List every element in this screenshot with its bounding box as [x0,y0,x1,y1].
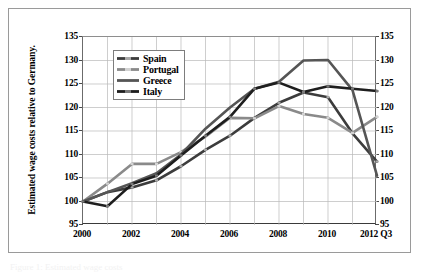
y-axis-title-container: Estimated wage costs relative to Germany… [23,36,39,224]
data-point-spain [327,96,330,98]
data-point-spain [376,160,379,162]
figure-container: Estimated wage costs relative to Germany… [0,0,421,277]
legend-item-italy[interactable]: Italy [117,86,179,97]
y-axis-tick-label: 130 [380,55,406,64]
y-axis-title: Estimated wage costs relative to Germany… [26,45,37,214]
legend-item-portugal[interactable]: Portugal [117,64,179,75]
legend-swatch-icon [117,53,139,64]
x-axis-tick-label: 2002 [122,229,140,239]
data-point-portugal [253,117,256,119]
y-axis-tick-label: 95 [52,220,78,229]
y-axis-tick-label: 120 [380,102,406,111]
data-point-spain [229,135,232,137]
y-axis-tick-label: 100 [52,196,78,205]
data-point-spain [155,179,158,181]
chart-frame: Estimated wage costs relative to Germany… [8,8,411,253]
y-axis-labels-left: 13513012512011511010510095 [52,36,78,224]
data-point-italy [302,91,305,93]
data-point-italy [253,88,256,90]
legend-item-spain[interactable]: Spain [117,53,179,64]
legend-label: Italy [143,86,162,97]
data-point-portugal [131,163,134,165]
legend-item-greece[interactable]: Greece [117,75,179,86]
x-axis-tick-label: 2010 [318,229,336,239]
y-axis-tick-label: 125 [380,79,406,88]
data-point-portugal [278,105,281,107]
data-point-spain [278,102,281,104]
legend-label: Greece [143,75,172,86]
legend-swatch-icon [117,86,139,97]
data-point-portugal [106,183,109,185]
data-point-italy [376,90,379,92]
x-axis-tick-label: 2000 [73,229,91,239]
x-axis-tick-label: 2012 Q3 [360,229,392,239]
y-axis-tick-label: 105 [380,173,406,182]
data-point-italy [106,205,109,207]
data-point-portugal [376,116,379,118]
data-point-italy [327,85,330,87]
data-point-portugal [302,113,305,115]
y-axis-tick-label: 110 [380,149,406,158]
data-point-italy [204,135,207,137]
y-axis-tick-label: 115 [380,126,406,135]
y-axis-tick-label: 135 [52,32,78,41]
x-axis-tick-label: 2008 [269,229,287,239]
data-point-portugal [351,132,354,134]
data-point-italy [180,154,183,156]
data-point-portugal [327,117,330,119]
y-axis-tick-label: 125 [52,79,78,88]
data-point-italy [278,81,281,83]
y-axis-tick-label: 135 [380,32,406,41]
figure-caption: Figure 1: Estimated wage costs [10,262,410,274]
legend-label: Spain [143,53,166,64]
y-axis-tick-label: 100 [380,196,406,205]
x-axis-tick-label: 2006 [220,229,238,239]
y-axis-tick-label: 95 [380,220,406,229]
x-axis-labels: 2000200220042006200820102012 Q3 [82,229,376,245]
data-point-portugal [155,163,158,165]
legend-swatch-icon [117,75,139,86]
data-point-italy [82,200,85,202]
y-axis-tick-label: 130 [52,55,78,64]
data-point-italy [131,183,134,185]
y-axis-tick-label: 110 [52,149,78,158]
data-point-italy [351,88,354,90]
y-axis-labels-right: 13513012512011511010510095 [380,36,406,224]
y-axis-tick-label: 120 [52,102,78,111]
data-point-spain [204,149,207,151]
legend-swatch-icon [117,64,139,75]
y-axis-tick-label: 105 [52,173,78,182]
data-point-italy [155,175,158,177]
data-point-spain [180,165,183,167]
y-axis-tick-label: 115 [52,126,78,135]
data-point-italy [229,116,232,118]
legend-label: Portugal [143,64,179,75]
x-axis-tick-label: 2004 [171,229,189,239]
chart-legend: SpainPortugalGreeceItaly [113,50,185,100]
